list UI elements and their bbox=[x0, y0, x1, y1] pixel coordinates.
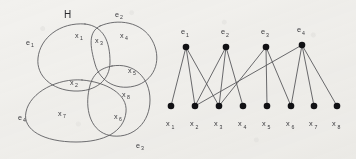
incidence-node-x1[interactable] bbox=[168, 103, 175, 110]
incidence-node-e4[interactable] bbox=[299, 42, 306, 49]
incidence-bottom-label: x 2 bbox=[190, 119, 199, 130]
hypergraph-vertex-label: x 6 bbox=[114, 112, 122, 122]
node-label-base: e bbox=[297, 25, 301, 34]
incidence-bottom-label: x 8 bbox=[332, 119, 341, 130]
vertex-label-sub: 7 bbox=[63, 113, 66, 119]
vertex-label-sub: 1 bbox=[80, 35, 83, 41]
hypergraph-edge-labels: e 1 e 2 e 3 e 4 bbox=[18, 10, 144, 151]
hyperedge-label-sub: 4 bbox=[23, 117, 26, 123]
node-label-base: x bbox=[166, 119, 170, 128]
node-label-base: e bbox=[181, 27, 185, 36]
incidence-edge bbox=[302, 45, 314, 106]
incidence-bottom-label: x 7 bbox=[309, 119, 318, 130]
incidence-top-labels: e 1 e 2 e 3 e 4 bbox=[181, 25, 305, 38]
incidence-edge bbox=[219, 47, 226, 106]
vertex-label-sub: 6 bbox=[119, 116, 122, 122]
vertex-label-base: x bbox=[128, 66, 132, 75]
vertex-label-base: x bbox=[75, 31, 79, 40]
incidence-node-e2[interactable] bbox=[223, 44, 230, 51]
incidence-node-x7[interactable] bbox=[311, 103, 318, 110]
node-label-base: x bbox=[214, 119, 218, 128]
node-label-sub: 6 bbox=[292, 124, 295, 130]
incidence-edge bbox=[226, 47, 243, 106]
hypergraph-title: H bbox=[64, 9, 71, 20]
node-label-base: e bbox=[221, 27, 225, 36]
hyperedge-label-base: e bbox=[26, 38, 30, 47]
figure-svg: H x 1 x 2 x 3 x 4 bbox=[0, 0, 356, 159]
hyperedge-curve-e4 bbox=[26, 80, 127, 142]
incidence-top-label: e 4 bbox=[297, 25, 305, 36]
incidence-node-x3[interactable] bbox=[216, 103, 223, 110]
incidence-bottom-label: x 1 bbox=[166, 119, 175, 130]
incidence-edges bbox=[171, 45, 337, 106]
hyperedge-label: e 4 bbox=[18, 113, 26, 123]
incidence-bottom-label: x 6 bbox=[286, 119, 295, 130]
incidence-node-x2[interactable] bbox=[192, 103, 199, 110]
node-label-base: x bbox=[332, 119, 336, 128]
hypergraph-vertex-label: x 3 bbox=[95, 36, 103, 46]
hypergraph-vertex-label: x 7 bbox=[58, 109, 66, 119]
incidence-top-nodes bbox=[183, 42, 306, 51]
hyperedge-label-base: e bbox=[115, 10, 119, 19]
incidence-edge bbox=[302, 45, 337, 106]
node-label-sub: 3 bbox=[220, 124, 223, 130]
node-label-sub: 4 bbox=[302, 30, 305, 36]
incidence-top-label: e 2 bbox=[221, 27, 229, 38]
figure-canvas: H x 1 x 2 x 3 x 4 bbox=[0, 0, 356, 159]
node-label-sub: 5 bbox=[268, 124, 271, 130]
vertex-label-base: x bbox=[58, 109, 62, 118]
node-label-sub: 2 bbox=[226, 32, 229, 38]
incidence-node-x5[interactable] bbox=[264, 103, 271, 110]
node-label-base: x bbox=[286, 119, 290, 128]
incidence-top-label: e 3 bbox=[261, 27, 269, 38]
hypergraph-vertex-label: x 5 bbox=[128, 66, 136, 76]
vertex-label-base: x bbox=[114, 112, 118, 121]
incidence-node-x6[interactable] bbox=[288, 103, 295, 110]
hypergraph-vertex-label: x 1 bbox=[75, 31, 83, 41]
incidence-graph-panel: e 1 e 2 e 3 e 4 x bbox=[166, 25, 341, 130]
incidence-bottom-nodes bbox=[168, 103, 341, 110]
vertex-label-sub: 4 bbox=[125, 35, 128, 41]
incidence-node-e1[interactable] bbox=[183, 44, 190, 51]
node-label-sub: 1 bbox=[186, 32, 189, 38]
incidence-bottom-label: x 3 bbox=[214, 119, 223, 130]
node-label-sub: 1 bbox=[172, 124, 175, 130]
incidence-node-x8[interactable] bbox=[334, 103, 341, 110]
hyperedge-curve-e1 bbox=[38, 24, 110, 91]
vertex-label-sub: 8 bbox=[127, 94, 130, 100]
vertex-label-sub: 3 bbox=[100, 40, 103, 46]
hypergraph-panel: H x 1 x 2 x 3 x 4 bbox=[18, 9, 157, 151]
hypergraph-vertex-label: x 4 bbox=[120, 31, 128, 41]
incidence-bottom-label: x 4 bbox=[238, 119, 247, 130]
node-label-sub: 8 bbox=[338, 124, 341, 130]
hyperedge-label: e 1 bbox=[26, 38, 34, 48]
hyperedge-label: e 3 bbox=[136, 141, 144, 151]
node-label-base: x bbox=[309, 119, 313, 128]
hypergraph-vertex-label: x 8 bbox=[122, 90, 130, 100]
node-label-sub: 3 bbox=[266, 32, 269, 38]
node-label-base: x bbox=[262, 119, 266, 128]
node-label-sub: 2 bbox=[196, 124, 199, 130]
vertex-label-base: x bbox=[122, 90, 126, 99]
incidence-top-label: e 1 bbox=[181, 27, 189, 38]
incidence-node-e3[interactable] bbox=[263, 44, 270, 51]
hyperedge-label: e 2 bbox=[115, 10, 123, 20]
vertex-label-sub: 2 bbox=[75, 82, 78, 88]
node-label-base: x bbox=[190, 119, 194, 128]
node-label-sub: 7 bbox=[315, 124, 318, 130]
hyperedge-curve-e3 bbox=[88, 65, 150, 136]
incidence-edge bbox=[266, 47, 291, 106]
hyperedge-label-sub: 2 bbox=[120, 14, 123, 20]
vertex-label-base: x bbox=[70, 78, 74, 87]
incidence-edge bbox=[219, 47, 266, 106]
incidence-edge bbox=[266, 47, 267, 106]
hypergraph-vertex-labels: x 1 x 2 x 3 x 4 x 5 bbox=[58, 31, 136, 122]
incidence-bottom-labels: x 1 x 2 x 3 x 4 x 5 bbox=[166, 119, 341, 130]
vertex-label-base: x bbox=[95, 36, 99, 45]
vertex-label-sub: 5 bbox=[133, 70, 136, 76]
node-label-base: e bbox=[261, 27, 265, 36]
incidence-node-x4[interactable] bbox=[240, 103, 247, 110]
node-label-base: x bbox=[238, 119, 242, 128]
incidence-edge bbox=[171, 47, 186, 106]
node-label-sub: 4 bbox=[244, 124, 247, 130]
